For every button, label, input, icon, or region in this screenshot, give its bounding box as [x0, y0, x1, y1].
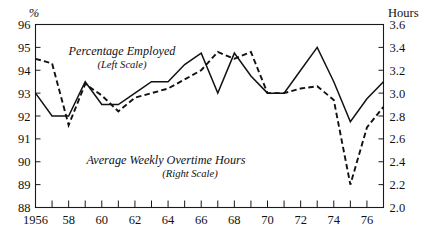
x-tick-label: 64	[162, 213, 175, 227]
annotation-overtime-hours-title: Average Weekly Overtime Hours	[86, 153, 246, 167]
right-tick-label: 2.0	[390, 201, 406, 215]
right-tick-label: 2.4	[390, 155, 406, 169]
left-axis-tick-labels: 888990919293949596	[18, 18, 31, 215]
left-tick-label: 91	[18, 132, 31, 146]
x-tick-label: 76	[361, 213, 374, 227]
x-tick-label: 68	[228, 213, 241, 227]
chart-container: % Hours 888990919293949596 2.02.22.42.62…	[0, 0, 428, 243]
right-tick-label: 3.0	[390, 87, 406, 101]
left-axis-ticks	[36, 47, 41, 184]
x-tick-label: 72	[294, 213, 307, 227]
right-tick-label: 2.8	[390, 110, 406, 124]
annotation-percentage-employed-scale: (Left Scale)	[97, 59, 147, 71]
right-tick-label: 3.2	[390, 64, 406, 78]
right-tick-label: 2.2	[390, 178, 406, 192]
x-tick-label: 58	[62, 213, 75, 227]
right-tick-label: 3.4	[390, 41, 406, 55]
left-tick-label: 93	[18, 87, 31, 101]
x-tick-label: 62	[129, 213, 142, 227]
x-tick-label: 66	[195, 213, 208, 227]
left-tick-label: 96	[18, 18, 31, 32]
x-tick-label: 60	[96, 213, 109, 227]
annotation-percentage-employed-title: Percentage Employed	[68, 44, 177, 58]
left-tick-label: 94	[18, 64, 31, 78]
left-tick-label: 95	[18, 41, 31, 55]
left-tick-label: 90	[18, 155, 31, 169]
x-axis-ticks	[36, 201, 384, 208]
x-tick-label: 70	[261, 213, 274, 227]
x-tick-label: 1956	[23, 213, 48, 227]
right-axis-tick-labels: 2.02.22.42.62.83.03.23.43.6	[390, 18, 406, 215]
series-average-weekly-overtime-hours	[36, 47, 384, 121]
right-tick-label: 2.6	[390, 132, 406, 146]
right-tick-label: 3.6	[390, 18, 406, 32]
annotation-overtime-hours-scale: (Right Scale)	[162, 168, 218, 180]
x-axis-tick-labels: 195658606264666870727476	[23, 213, 373, 227]
employment-overtime-line-chart: % Hours 888990919293949596 2.02.22.42.62…	[0, 0, 428, 243]
x-tick-label: 74	[328, 213, 341, 227]
right-axis-ticks	[379, 47, 384, 184]
left-tick-label: 92	[18, 110, 31, 124]
left-tick-label: 89	[18, 178, 31, 192]
